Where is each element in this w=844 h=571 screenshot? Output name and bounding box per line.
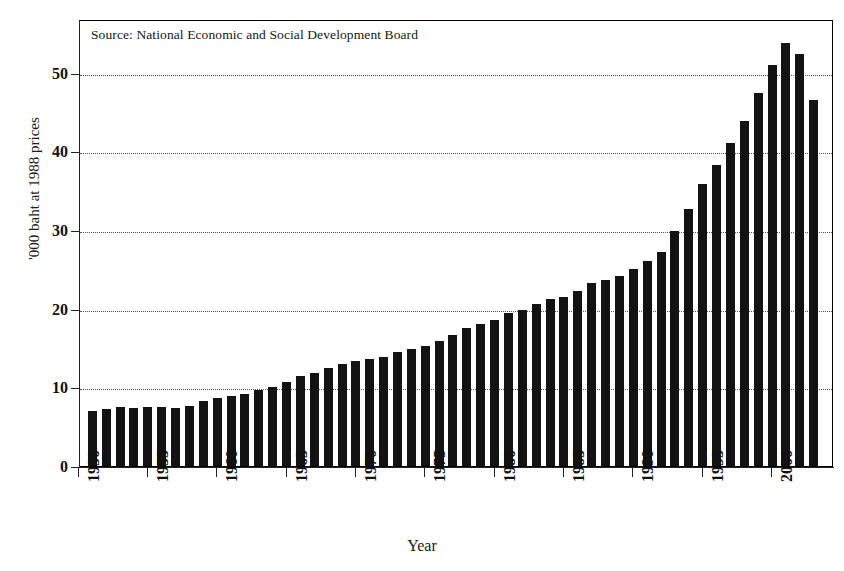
bar: [684, 209, 693, 466]
bar: [393, 352, 402, 466]
bar: [559, 297, 568, 466]
x-tick: [286, 468, 287, 477]
x-tick-label: 1965: [293, 422, 311, 482]
bar: [670, 231, 679, 466]
bar-chart: Source: National Economic and Social Dev…: [0, 0, 844, 571]
bar: [171, 408, 180, 466]
bar: [421, 346, 430, 466]
x-tick: [424, 468, 425, 477]
bar: [601, 280, 610, 466]
x-tick-label: 1975: [431, 422, 449, 482]
bar: [476, 324, 485, 466]
x-tick: [147, 468, 148, 477]
bar: [129, 408, 138, 466]
bar: [768, 65, 777, 466]
y-tick: [71, 388, 80, 389]
bar: [143, 407, 152, 466]
x-tick-label: 1980: [501, 422, 519, 482]
bar: [518, 310, 527, 466]
bar: [324, 368, 333, 466]
x-tick-label: 1960: [223, 422, 241, 482]
y-tick-label: 10: [24, 380, 68, 396]
x-tick: [78, 468, 79, 477]
x-tick: [494, 468, 495, 477]
plot-area: Source: National Economic and Social Dev…: [79, 20, 833, 467]
bar: [254, 390, 263, 466]
bars-layer: [80, 21, 832, 466]
bar: [116, 407, 125, 466]
y-tick: [71, 231, 80, 232]
bar: [698, 184, 707, 466]
x-tick-label: 1995: [709, 422, 727, 482]
bar: [587, 283, 596, 466]
y-tick: [71, 152, 80, 153]
bar: [740, 121, 749, 466]
bar: [448, 335, 457, 466]
bar: [629, 269, 638, 466]
bar: [199, 401, 208, 466]
bar: [462, 328, 471, 467]
bar: [310, 373, 319, 466]
y-tick-label: 20: [24, 302, 68, 318]
bar: [795, 54, 804, 466]
bar: [532, 304, 541, 466]
x-tick-label: 2000: [778, 422, 796, 482]
y-tick: [71, 310, 80, 311]
bar: [781, 43, 790, 466]
bar: [726, 143, 735, 466]
x-tick-label: 1970: [362, 422, 380, 482]
x-tick: [216, 468, 217, 477]
bar: [282, 382, 291, 466]
y-tick-label: 0: [24, 459, 68, 475]
bar: [407, 349, 416, 466]
y-tick-label: 50: [24, 66, 68, 82]
x-tick: [563, 468, 564, 477]
bar: [754, 93, 763, 466]
bar: [351, 361, 360, 466]
x-tick-label: 1955: [154, 422, 172, 482]
x-axis-title: Year: [0, 537, 844, 555]
bar: [102, 409, 111, 466]
y-tick: [71, 74, 80, 75]
bar: [213, 398, 222, 466]
x-tick-label: 1950: [85, 422, 103, 482]
bar: [809, 100, 818, 466]
y-axis-line: [79, 20, 80, 468]
bar: [379, 357, 388, 466]
bar: [546, 299, 555, 466]
x-tick: [355, 468, 356, 477]
bar: [615, 276, 624, 466]
bar: [712, 165, 721, 466]
x-tick: [632, 468, 633, 477]
bar: [268, 387, 277, 466]
bar: [657, 252, 666, 466]
bar: [240, 394, 249, 466]
y-axis-title: '000 baht at 1988 prices: [26, 89, 43, 289]
bar: [338, 364, 347, 466]
x-tick-label: 1985: [570, 422, 588, 482]
bar: [490, 320, 499, 466]
bar: [185, 406, 194, 466]
x-tick-label: 1990: [639, 422, 657, 482]
x-tick: [771, 468, 772, 477]
x-tick: [702, 468, 703, 477]
